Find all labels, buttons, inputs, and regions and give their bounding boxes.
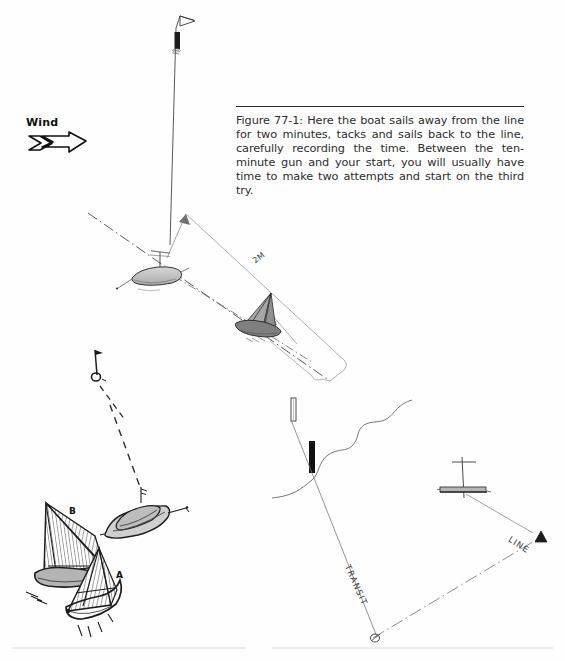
figure-caption: Figure 77-1: Here the boat sails away fr… <box>236 106 524 199</box>
landmark-white-tower-icon <box>291 398 296 421</box>
start-line-bottom-right <box>373 537 541 638</box>
wind-arrow-icon <box>26 131 92 157</box>
pin-mark-triangle-icon <box>535 531 547 542</box>
start-mark-bottom <box>371 634 381 642</box>
boat-label-b: B <box>69 506 76 516</box>
committee-boat-bottom-left <box>100 487 189 538</box>
top-diagram <box>88 16 346 420</box>
boat-track-line <box>160 268 312 362</box>
bottom-left-diagram <box>26 405 189 637</box>
figure-page: Wind Figure 77-1: Here the boat sails aw… <box>0 0 565 661</box>
committee-boat-bottom-right <box>437 457 491 498</box>
dimension-line-2m <box>186 214 345 361</box>
committee-boat-top <box>116 251 189 291</box>
start-line-bottom-left <box>110 405 140 487</box>
caption-text: Figure 77-1: Here the boat sails away fr… <box>236 114 524 199</box>
pin-buoy-icon <box>92 350 126 420</box>
boat-label-a: A <box>116 570 123 580</box>
wind-indicator: Wind <box>26 116 92 161</box>
bottom-right-diagram <box>272 398 547 642</box>
sailboat-sailing-away <box>235 293 281 342</box>
wind-label: Wind <box>26 116 92 129</box>
windward-mark-flag-icon <box>170 16 195 245</box>
figure-artwork <box>0 0 565 661</box>
caption-rule <box>236 106 524 107</box>
